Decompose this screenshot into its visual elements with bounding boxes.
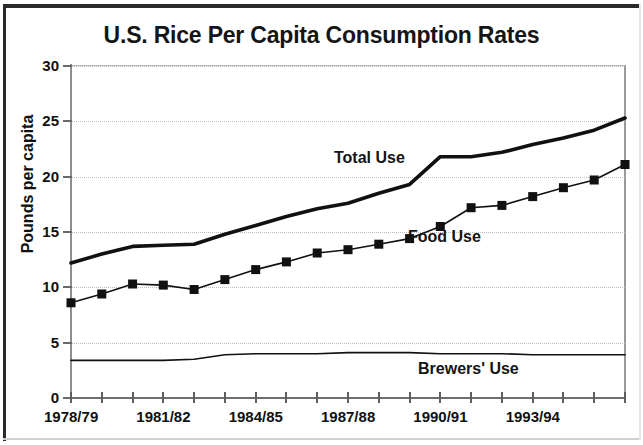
x-tick-mark — [439, 392, 441, 403]
y-tick-label: 10 — [14, 278, 59, 295]
x-tick-mark — [162, 392, 164, 403]
y-tick-label: 15 — [14, 223, 59, 240]
x-tick-mark — [470, 392, 472, 403]
y-tick-label: 0 — [14, 389, 59, 406]
x-tick-mark — [70, 392, 72, 403]
gridline — [71, 121, 625, 122]
x-tick-mark — [378, 392, 380, 403]
x-tick-mark — [624, 392, 626, 403]
frame-top-border — [3, 4, 641, 8]
x-tick-mark — [316, 392, 318, 403]
x-tick-mark — [285, 392, 287, 403]
x-tick-label: 1993/94 — [506, 408, 560, 425]
gridline — [71, 177, 625, 178]
x-tick-label: 1984/85 — [229, 408, 283, 425]
x-tick-mark — [193, 392, 195, 403]
y-tick-label: 30 — [14, 57, 59, 74]
figure-frame: U.S. Rice Per Capita Consumption Rates P… — [0, 0, 643, 445]
gridline — [71, 287, 625, 288]
gridline — [71, 66, 625, 67]
series-label-brewers-use: Brewers' Use — [418, 360, 519, 378]
x-tick-mark — [409, 392, 411, 403]
series-label-food-use: Food Use — [408, 228, 481, 246]
x-tick-mark — [101, 392, 103, 403]
gridline — [71, 343, 625, 344]
x-tick-label: 1978/79 — [44, 408, 98, 425]
x-tick-mark — [562, 392, 564, 403]
x-tick-mark — [347, 392, 349, 403]
y-tick-mark — [63, 286, 72, 288]
x-tick-label: 1990/91 — [413, 408, 467, 425]
x-tick-mark — [224, 392, 226, 403]
y-tick-mark — [63, 120, 72, 122]
x-tick-mark — [255, 392, 257, 403]
frame-right-border — [639, 4, 641, 440]
x-tick-mark — [132, 392, 134, 403]
y-tick-label: 5 — [14, 334, 59, 351]
y-tick-mark — [63, 342, 72, 344]
frame-left-border — [3, 4, 6, 441]
x-tick-mark — [593, 392, 595, 403]
x-tick-mark — [501, 392, 503, 403]
plot-area — [71, 66, 625, 398]
y-tick-mark — [63, 176, 72, 178]
y-tick-mark — [63, 65, 72, 67]
y-tick-label: 20 — [14, 168, 59, 185]
x-tick-label: 1987/88 — [321, 408, 375, 425]
gridline — [71, 232, 625, 233]
y-tick-mark — [63, 231, 72, 233]
series-label-total-use: Total Use — [334, 149, 405, 167]
chart-title: U.S. Rice Per Capita Consumption Rates — [0, 22, 643, 49]
y-tick-label: 25 — [14, 112, 59, 129]
x-tick-mark — [532, 392, 534, 403]
frame-bottom-border — [3, 438, 641, 440]
x-tick-label: 1981/82 — [136, 408, 190, 425]
